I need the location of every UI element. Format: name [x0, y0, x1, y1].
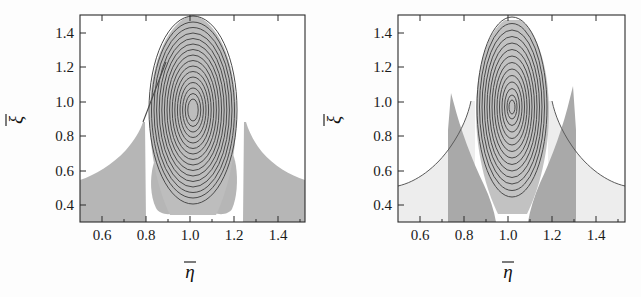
y-tick-label: 0.6 — [373, 163, 392, 179]
x-tick-label: 0.6 — [93, 227, 112, 243]
y-tick-label: 1.2 — [373, 59, 392, 75]
y-tick-label: 1.0 — [55, 94, 74, 110]
y-tick-label: 0.4 — [55, 197, 74, 213]
y-tick-label: 0.4 — [373, 197, 392, 213]
x-tick-label: 0.8 — [137, 227, 156, 243]
y-tick-label: 0.6 — [55, 163, 74, 179]
y-tick-label: 0.8 — [373, 128, 392, 144]
x-tick-label: 0.8 — [455, 227, 474, 243]
contour-plot-left-svg: 0.6 0.8 1.0 1.2 1.4 0.4 0.6 0.8 1.0 1.2 … — [0, 0, 320, 297]
contour-panel-right: 0.6 0.8 1.0 1.2 1.4 0.4 0.6 0.8 1.0 1.2 … — [320, 0, 640, 297]
y-tick-label: 1.0 — [373, 94, 392, 110]
x-tick-label: 1.4 — [269, 227, 288, 243]
y-axis-title: ξ — [5, 115, 26, 124]
contour-figure: 0.6 0.8 1.0 1.2 1.4 0.4 0.6 0.8 1.0 1.2 … — [0, 0, 641, 297]
y-axis-title-group-right: ξ — [323, 114, 344, 126]
x-axis-title-group-right: η — [502, 261, 514, 282]
contour-plot-right-svg: 0.6 0.8 1.0 1.2 1.4 0.4 0.6 0.8 1.0 1.2 … — [320, 0, 641, 297]
y-tick-label: 0.8 — [55, 128, 74, 144]
y-axis-title: ξ — [323, 115, 344, 124]
contour-panel-left: 0.6 0.8 1.0 1.2 1.4 0.4 0.6 0.8 1.0 1.2 … — [0, 0, 320, 297]
y-tick-label: 1.4 — [373, 25, 392, 41]
y-tick-label: 1.2 — [55, 59, 74, 75]
x-axis-title: η — [185, 261, 194, 282]
x-tick-label: 1.0 — [499, 227, 518, 243]
x-tick-label: 1.4 — [587, 227, 606, 243]
x-tick-label: 1.2 — [225, 227, 244, 243]
x-tick-label: 1.2 — [543, 227, 562, 243]
x-tick-label: 0.6 — [411, 227, 430, 243]
x-axis-title-group-left: η — [184, 261, 196, 282]
y-axis-title-group-left: ξ — [5, 114, 26, 126]
x-tick-label: 1.0 — [181, 227, 200, 243]
y-tick-label: 1.4 — [55, 25, 74, 41]
x-axis-title: η — [503, 261, 512, 282]
